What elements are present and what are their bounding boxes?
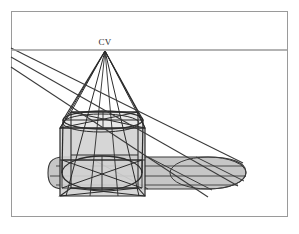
figure-root: CV: [0, 0, 299, 234]
perspective-box-group: [60, 112, 145, 196]
perspective-diagram: CV: [0, 0, 299, 234]
cv-label: CV: [99, 37, 112, 47]
